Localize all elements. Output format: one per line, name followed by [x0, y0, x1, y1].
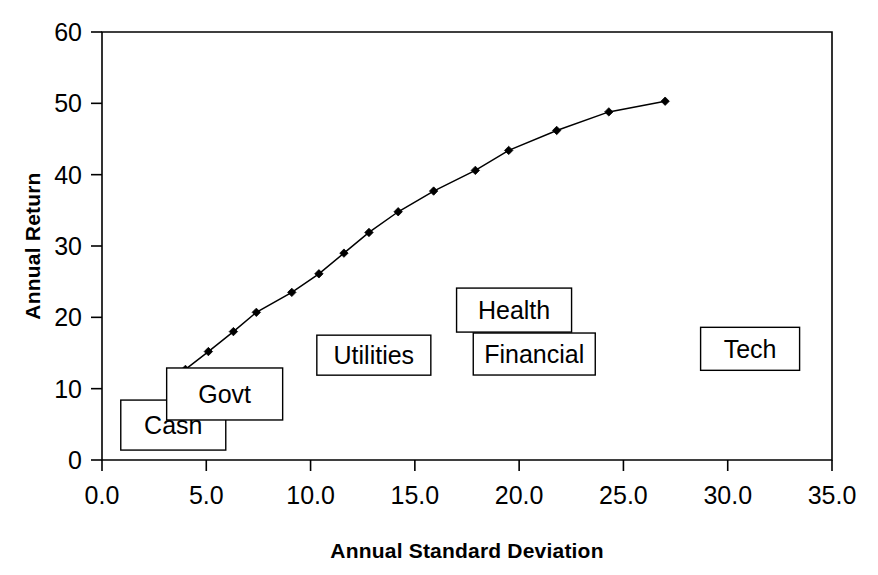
callout-utilities: Utilities	[317, 335, 431, 375]
callout-govt: Govt	[167, 368, 283, 420]
y-tick-label: 30	[54, 232, 82, 260]
x-tick-label: 15.0	[391, 481, 440, 509]
callout-tech: Tech	[701, 327, 800, 370]
chart-container: 0102030405060 0.05.010.015.020.025.030.0…	[0, 0, 878, 575]
y-tick-label: 60	[54, 18, 82, 46]
data-point-marker	[505, 146, 513, 154]
callout-label-tech: Tech	[724, 335, 777, 363]
y-axis-ticks: 0102030405060	[54, 18, 102, 474]
callout-label-govt: Govt	[198, 380, 251, 408]
x-axis-ticks: 0.05.010.015.020.025.030.035.0	[85, 460, 857, 509]
callout-labels: CashGovtUtilitiesHealthFinancialTech	[121, 288, 800, 450]
data-point-marker	[429, 187, 437, 195]
y-tick-label: 40	[54, 161, 82, 189]
x-axis-title: Annual Standard Deviation	[330, 539, 603, 562]
y-tick-label: 20	[54, 303, 82, 331]
callout-label-health: Health	[478, 296, 550, 324]
scatter-line-chart: 0102030405060 0.05.010.015.020.025.030.0…	[0, 0, 878, 575]
callout-financial: Financial	[473, 333, 595, 375]
x-tick-label: 35.0	[808, 481, 857, 509]
y-tick-label: 10	[54, 375, 82, 403]
callout-label-utilities: Utilities	[334, 341, 415, 369]
x-tick-label: 30.0	[703, 481, 752, 509]
callout-health: Health	[457, 288, 572, 332]
x-tick-label: 5.0	[189, 481, 224, 509]
y-tick-label: 50	[54, 89, 82, 117]
callout-label-financial: Financial	[484, 340, 584, 368]
y-tick-label: 0	[68, 446, 82, 474]
x-tick-label: 25.0	[599, 481, 648, 509]
data-point-marker	[471, 166, 479, 174]
data-point-marker	[552, 126, 560, 134]
data-point-marker	[605, 108, 613, 116]
y-axis-title: Annual Return	[21, 172, 44, 319]
series-line	[185, 101, 665, 369]
x-tick-label: 10.0	[286, 481, 335, 509]
x-tick-label: 20.0	[495, 481, 544, 509]
data-point-marker	[288, 288, 296, 296]
data-point-marker	[661, 97, 669, 105]
data-series-efficient-frontier	[181, 97, 669, 374]
x-tick-label: 0.0	[85, 481, 120, 509]
